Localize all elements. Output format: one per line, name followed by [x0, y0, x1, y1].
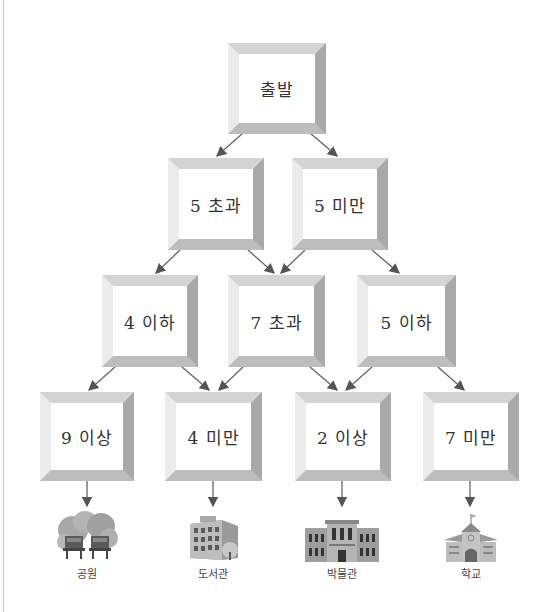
destination-label-park: 공원 — [47, 565, 127, 581]
node-greater-than-7: 7 초과 — [228, 275, 325, 367]
museum-icon — [305, 520, 379, 562]
node-label: 7 초과 — [250, 309, 302, 334]
node-start: 출발 — [228, 43, 326, 134]
node-label: 2 이상 — [317, 424, 369, 449]
destination-label-museum: 박물관 — [302, 565, 382, 581]
destination-label-library: 도서관 — [173, 565, 253, 581]
node-label: 7 미만 — [445, 424, 497, 449]
node-label: 출발 — [260, 76, 294, 101]
node-label: 4 미만 — [187, 424, 239, 449]
destination-label-school: 학교 — [431, 565, 511, 581]
node-label: 5 초과 — [190, 192, 242, 217]
node-at-least-2: 2 이상 — [295, 392, 391, 481]
node-less-than-4: 4 미만 — [165, 392, 262, 481]
node-less-than-7: 7 미만 — [423, 392, 519, 481]
node-at-most-4: 4 이하 — [102, 275, 198, 367]
library-icon — [186, 512, 242, 564]
node-greater-than-5: 5 초과 — [168, 158, 264, 250]
node-label: 5 미만 — [314, 192, 366, 217]
node-label: 4 이하 — [124, 309, 176, 334]
node-label: 5 이하 — [380, 309, 432, 334]
node-at-least-9: 9 이상 — [40, 392, 134, 481]
school-icon — [444, 512, 498, 562]
node-at-most-5: 5 이하 — [357, 275, 456, 367]
node-less-than-5: 5 미만 — [292, 158, 388, 250]
park-icon — [57, 510, 119, 564]
node-label: 9 이상 — [61, 424, 113, 449]
